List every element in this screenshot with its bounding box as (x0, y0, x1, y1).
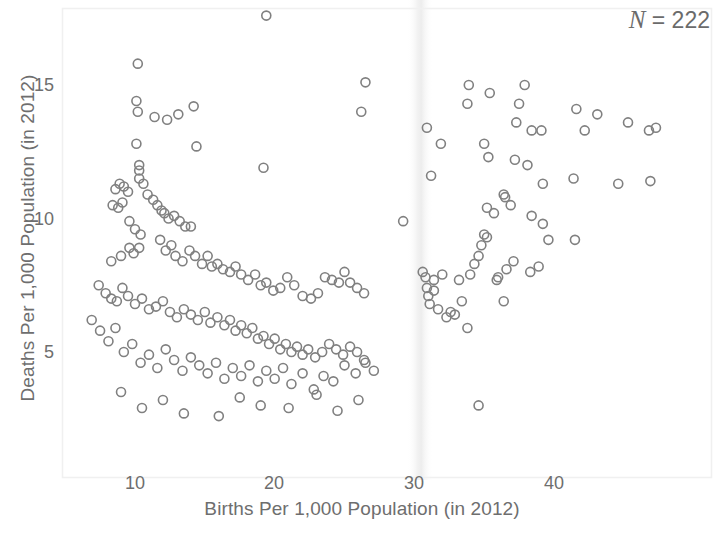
data-point (290, 281, 299, 290)
data-point (185, 246, 194, 255)
data-point (351, 369, 360, 378)
data-point (135, 243, 144, 252)
data-point (153, 364, 162, 373)
x-tick-label-20: 20 (254, 473, 294, 494)
data-point (527, 126, 536, 135)
y-axis-title-wrapper: Deaths Per 1,000 Population (in 2012) (17, 3, 43, 473)
data-point (228, 364, 237, 373)
data-point (231, 326, 240, 335)
data-point (287, 348, 296, 357)
data-point (203, 251, 212, 260)
data-point (253, 377, 262, 386)
scatter-plot-figure: 15 10 5 10 20 30 40 Births Per 1,000 Pop… (0, 0, 724, 539)
data-point (156, 235, 165, 244)
data-point (298, 350, 307, 359)
data-point (436, 139, 445, 148)
data-point (457, 297, 466, 306)
data-point (132, 97, 141, 106)
data-point (107, 257, 116, 266)
data-point (189, 102, 198, 111)
data-point (298, 369, 307, 378)
data-point (213, 259, 222, 268)
data-point (203, 369, 212, 378)
data-point (179, 409, 188, 418)
data-point (340, 361, 349, 370)
data-point (353, 348, 362, 357)
data-point (489, 209, 498, 218)
data-point (279, 364, 288, 373)
data-point (132, 139, 141, 148)
data-point (131, 225, 140, 234)
data-point (186, 353, 195, 362)
data-point (251, 270, 260, 279)
data-point (526, 267, 535, 276)
data-point (474, 401, 483, 410)
data-point (125, 217, 134, 226)
data-point (198, 259, 207, 268)
data-point (248, 323, 257, 332)
data-point (515, 99, 524, 108)
data-point (438, 270, 447, 279)
data-point (527, 211, 536, 220)
data-point (281, 339, 290, 348)
data-point (225, 315, 234, 324)
data-point (137, 294, 146, 303)
data-point (178, 257, 187, 266)
data-point (118, 283, 127, 292)
data-point (360, 289, 369, 298)
data-point (534, 262, 543, 271)
data-point (593, 110, 602, 119)
data-point (463, 99, 472, 108)
data-point (161, 246, 170, 255)
data-point (506, 201, 515, 210)
data-point (339, 350, 348, 359)
sample-size-value: = 222 (645, 7, 710, 33)
data-point (200, 307, 209, 316)
data-point (174, 110, 183, 119)
data-point (107, 294, 116, 303)
data-point (270, 334, 279, 343)
scan-crease-artifact (407, 0, 433, 480)
data-point (284, 404, 293, 413)
data-point (569, 174, 578, 183)
data-point (144, 350, 153, 359)
data-point (104, 337, 113, 346)
data-point (502, 265, 511, 274)
data-points-layer (87, 11, 660, 421)
data-point (136, 230, 145, 239)
data-point (361, 78, 370, 87)
data-point (170, 356, 179, 365)
data-point (293, 342, 302, 351)
data-point (357, 107, 366, 116)
data-point (312, 390, 321, 399)
data-point (464, 81, 473, 90)
data-point (128, 339, 137, 348)
x-tick-label-40: 40 (534, 473, 574, 494)
data-point (161, 345, 170, 354)
data-point (158, 396, 167, 405)
data-point (313, 289, 322, 298)
data-point (318, 348, 327, 357)
data-point (309, 385, 318, 394)
data-point (537, 126, 546, 135)
data-point (111, 323, 120, 332)
data-point (538, 219, 547, 228)
data-point (235, 393, 244, 402)
data-point (262, 11, 271, 20)
data-point (477, 241, 486, 250)
data-point (167, 241, 176, 250)
data-point (572, 105, 581, 114)
x-axis-title: Births Per 1,000 Population (in 2012) (0, 498, 724, 520)
data-point (150, 113, 159, 122)
data-point (614, 179, 623, 188)
data-point (256, 401, 265, 410)
data-point (329, 377, 338, 386)
data-point (369, 366, 378, 375)
data-point (117, 388, 126, 397)
data-point (137, 404, 146, 413)
sample-size-symbol: N (629, 6, 646, 33)
data-point (283, 273, 292, 282)
x-tick-label-10: 10 (115, 473, 155, 494)
data-point (191, 251, 200, 260)
data-point (220, 321, 229, 330)
